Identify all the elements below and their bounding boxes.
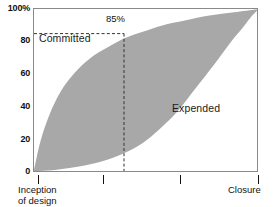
y-tick-label-100: 100%: [8, 4, 30, 13]
y-tick-label-20: 20: [20, 135, 30, 144]
y-tick-label-0: 0: [25, 167, 30, 176]
series-label-committed: Committed: [39, 32, 91, 44]
y-axis-tick-labels: 100% 80 60 40 20 0: [0, 0, 30, 180]
callout-label-85-percent: 85%: [106, 13, 125, 24]
x-axis-label-inception-line1: Inception: [18, 185, 57, 196]
y-tick-label-40: 40: [20, 102, 30, 111]
plot-area: Committed Expended: [33, 8, 258, 172]
x-axis-label-closure: Closure: [228, 185, 261, 196]
x-tick-inception: [38, 175, 39, 184]
x-tick-2: [103, 175, 104, 184]
y-tick-label-60: 60: [20, 69, 30, 78]
x-axis-label-inception-line2: of design: [18, 196, 57, 207]
y-tick-label-80: 80: [20, 36, 30, 45]
x-tick-3: [180, 175, 181, 184]
cost-commitment-chart: 100% 80 60 40 20 0 Committed Expended 85…: [0, 0, 275, 207]
x-tick-closure: [258, 175, 259, 184]
series-label-expended: Expended: [172, 102, 220, 114]
x-axis-label-inception: Inception of design: [18, 185, 57, 206]
